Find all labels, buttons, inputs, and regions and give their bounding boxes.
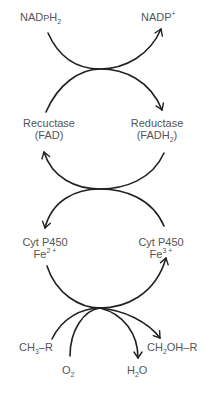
label-nadph2: NADPH2 xyxy=(20,11,61,24)
cyt-fe2-line2: Fe2 + xyxy=(15,248,75,260)
cyt-fe3-line2: Fe3 + xyxy=(131,248,191,260)
product-end: OH–R xyxy=(167,341,198,353)
fe2-sup: 2 + xyxy=(46,247,56,254)
label-cyt-fe2: Cyt P450 Fe2 + xyxy=(15,236,75,260)
label-cyt-fe3: Cyt P450 Fe3 + xyxy=(131,236,191,260)
fe2-base: Fe xyxy=(34,248,47,260)
nadph2-base: NAD xyxy=(20,11,43,23)
fe3-base: Fe xyxy=(150,248,163,260)
water-end: O xyxy=(139,364,148,376)
oxygen-base: O xyxy=(62,364,71,376)
label-oxygen: O2 xyxy=(62,364,74,376)
fadh2-base: (FADH xyxy=(137,129,170,141)
nadph2-sub: 2 xyxy=(57,18,61,25)
substrate-base: CH xyxy=(19,341,35,353)
fe3-sup: 3 + xyxy=(162,247,172,254)
cyt-fe3-line1: Cyt P450 xyxy=(131,236,191,248)
arrow-to-product xyxy=(100,308,160,338)
label-water: H2O xyxy=(127,364,147,376)
water-base: H xyxy=(127,364,135,376)
arrow-nadph2-to-nadp xyxy=(48,29,161,69)
reductase-fad-line2: (FAD) xyxy=(18,129,80,141)
arrow-fad-to-fadh2 xyxy=(46,69,162,112)
nadph2-h: H xyxy=(49,11,57,23)
cyt-fe2-line1: Cyt P450 xyxy=(15,236,75,248)
pathway-diagram xyxy=(0,0,205,394)
reductase-fad-line1: Recuctase xyxy=(18,117,80,129)
substrate-end: –R xyxy=(39,341,53,353)
label-reductase-fadh2: Reductase (FADH2) xyxy=(124,117,190,141)
label-substrate: CH3–R xyxy=(19,341,53,353)
label-product: CH2OH–R xyxy=(147,341,197,353)
reductase-fadh2-line2: (FADH2) xyxy=(124,129,190,141)
reductase-fadh2-line1: Reductase xyxy=(124,117,190,129)
product-base: CH xyxy=(147,341,163,353)
arrow-to-water xyxy=(100,308,138,358)
label-nadp-plus: NADP+ xyxy=(141,11,176,23)
arrow-substrate-in xyxy=(52,308,100,339)
arrow-fadh2-to-fad xyxy=(44,152,164,189)
nadp-sup: + xyxy=(172,10,176,17)
arrow-fe2-to-fe3 xyxy=(47,258,166,308)
label-reductase-fad: Recuctase (FAD) xyxy=(18,117,80,141)
nadp-base: NADP xyxy=(141,11,172,23)
oxygen-sub: 2 xyxy=(71,371,75,378)
fadh2-end: ) xyxy=(174,129,178,141)
arrow-fe3-to-fe2 xyxy=(45,189,164,228)
